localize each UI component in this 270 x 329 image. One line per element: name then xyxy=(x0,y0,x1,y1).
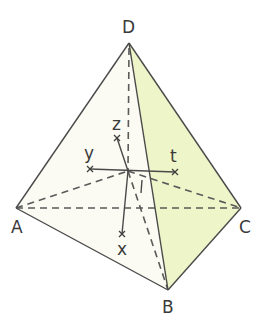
vertex-label-a: A xyxy=(11,217,23,237)
vertex-label-c: C xyxy=(239,217,251,237)
point-label-z: z xyxy=(112,114,121,134)
tetrahedron-diagram: D A C B z y t x xyxy=(0,0,270,329)
marker-i-tick xyxy=(141,180,142,193)
diagram-canvas: D A C B z y t x xyxy=(0,0,270,329)
point-label-x: x xyxy=(117,239,127,259)
vertex-label-b: B xyxy=(162,297,174,317)
point-label-t: t xyxy=(170,146,177,166)
vertex-label-d: D xyxy=(122,17,135,37)
point-label-y: y xyxy=(84,143,94,163)
